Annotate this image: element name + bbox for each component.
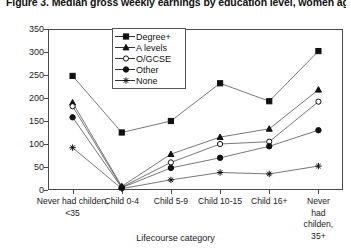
data-point	[70, 73, 75, 78]
data-point	[217, 169, 223, 175]
data-point	[315, 87, 321, 93]
legend-label: A levels	[135, 43, 167, 53]
legend-item: None	[115, 75, 182, 86]
series-line	[73, 148, 319, 189]
legend-marker-icon	[115, 75, 135, 86]
legend-marker	[123, 67, 128, 72]
data-point	[217, 155, 222, 160]
legend-label: Degree+	[135, 32, 171, 42]
legend-marker-icon	[115, 42, 135, 53]
chart-legend: Degree+A levelsO/GCSEOtherNone	[112, 28, 186, 89]
data-point	[267, 99, 272, 104]
data-point	[70, 104, 75, 109]
data-point	[267, 144, 272, 149]
series-line	[73, 117, 319, 187]
legend-item: O/GCSE	[115, 53, 182, 64]
data-point	[168, 177, 174, 183]
legend-marker	[123, 77, 129, 83]
data-point	[217, 81, 222, 86]
data-point	[217, 141, 222, 146]
data-point	[315, 163, 321, 169]
data-point	[69, 144, 75, 150]
data-point	[316, 99, 321, 104]
data-point	[316, 48, 321, 53]
data-point	[266, 171, 272, 177]
legend-label: None	[135, 76, 158, 86]
series-line	[73, 102, 319, 188]
legend-label: Other	[135, 65, 159, 75]
legend-item: Other	[115, 64, 182, 75]
legend-marker	[123, 56, 128, 61]
data-point	[168, 118, 173, 123]
legend-marker-icon	[115, 31, 135, 42]
data-point	[119, 130, 124, 135]
data-point	[316, 128, 321, 133]
data-point	[119, 185, 125, 191]
series-lines	[73, 51, 319, 189]
legend-marker-icon	[115, 53, 135, 64]
legend-item: A levels	[115, 42, 182, 53]
data-point	[168, 160, 173, 165]
legend-marker	[123, 44, 129, 50]
legend-label: O/GCSE	[135, 54, 171, 64]
legend-item: Degree+	[115, 31, 182, 42]
data-point	[168, 165, 173, 170]
x-axis-label: Lifecourse category	[0, 233, 351, 243]
chart-figure: Figure 3. Median gross weekly earnings b…	[0, 0, 351, 249]
series-line	[73, 51, 319, 132]
legend-marker-icon	[115, 64, 135, 75]
data-point	[70, 115, 75, 120]
legend-marker	[123, 34, 128, 39]
data-point	[266, 126, 272, 132]
series-markers	[69, 48, 321, 191]
